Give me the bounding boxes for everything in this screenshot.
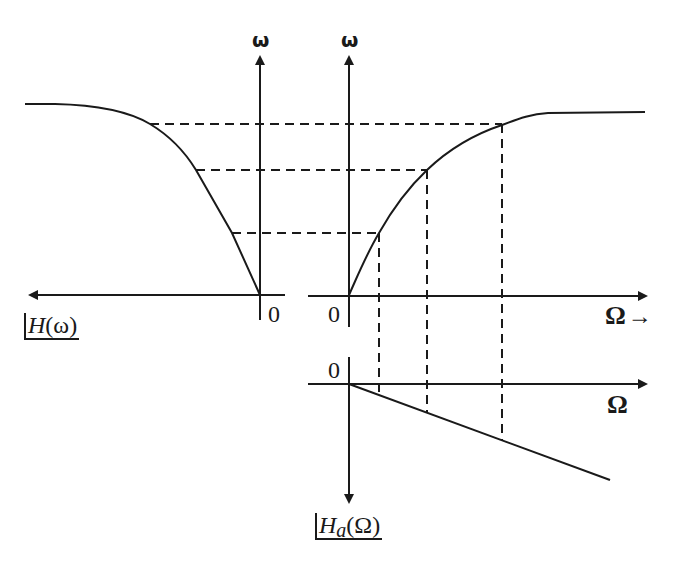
top-horizontal-axis-label: Ω→ (605, 303, 652, 329)
mapping-panel (308, 57, 646, 327)
right-vertical-axis-label: ω (341, 30, 358, 50)
function-name-H: H (28, 312, 45, 338)
frequency-transformation-diagram (0, 0, 688, 568)
bottom-horizontal-axis-label: Ω (607, 392, 628, 418)
bottom-function-label: Ha(Ω) (315, 513, 382, 540)
function-subscript: a (336, 519, 346, 541)
function-arg: (ω) (45, 312, 77, 338)
arrow-right-icon: → (628, 304, 652, 328)
projection-lines (150, 124, 502, 441)
bottom-right-origin-label: 0 (328, 358, 340, 382)
left-function-label: H(ω) (24, 313, 79, 340)
bottom-linear-magnitude-line (349, 384, 610, 480)
left-panel (25, 57, 285, 320)
top-right-origin-label: 0 (328, 302, 340, 326)
function-arg: (Ω) (346, 512, 380, 538)
left-vertical-axis-label: ω (252, 30, 269, 50)
left-magnitude-curve (25, 104, 260, 295)
function-name-H: H (319, 512, 336, 538)
bottom-panel (308, 357, 646, 502)
left-origin-label: 0 (268, 302, 280, 326)
omega-capital-label: Ω (605, 301, 626, 330)
mapping-curve (349, 112, 645, 295)
